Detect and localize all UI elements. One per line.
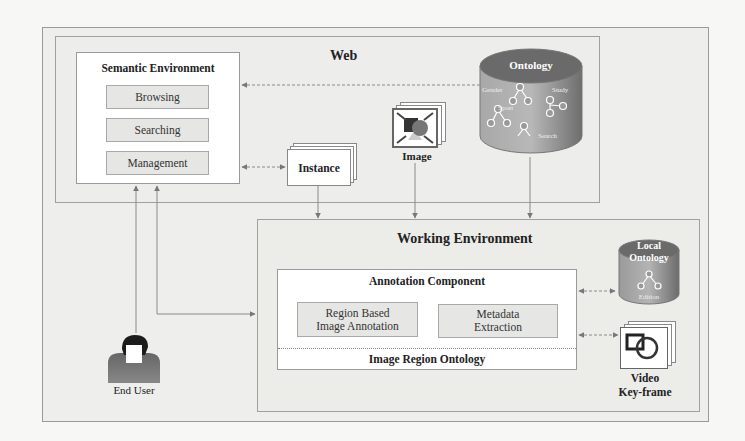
connector-lines [0,0,745,441]
